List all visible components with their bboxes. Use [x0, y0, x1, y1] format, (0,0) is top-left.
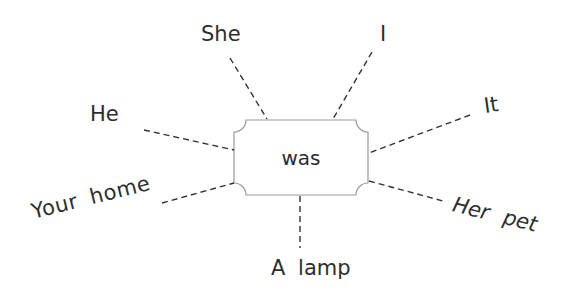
- spoke-label-she: She: [201, 24, 241, 45]
- connector-her-pet: [369, 181, 443, 201]
- connector-she: [230, 58, 267, 119]
- spoke-label-it: It: [483, 94, 500, 117]
- spoke-label-i: I: [380, 24, 386, 45]
- connector-it: [369, 115, 470, 153]
- spoke-label-a-lamp: A lamp: [271, 258, 351, 279]
- center-word-was: was: [234, 120, 368, 195]
- connector-your-home: [162, 183, 234, 203]
- spoke-label-he: He: [90, 104, 119, 125]
- connector-he: [144, 130, 234, 150]
- connector-i: [333, 52, 372, 119]
